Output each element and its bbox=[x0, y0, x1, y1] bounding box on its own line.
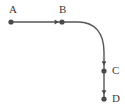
arrowhead-down-toward-d bbox=[102, 90, 107, 94]
node-b bbox=[59, 19, 64, 24]
node-label-a: A bbox=[9, 4, 17, 15]
edge-b-to-c bbox=[62, 22, 104, 71]
node-d bbox=[101, 96, 106, 101]
node-a bbox=[8, 19, 13, 24]
node-label-c: C bbox=[112, 65, 119, 76]
arrowhead-down-toward-c bbox=[102, 61, 107, 65]
diagram-canvas bbox=[0, 0, 125, 106]
node-c bbox=[101, 68, 106, 73]
path-diagram: A B C D bbox=[0, 0, 125, 106]
node-label-d: D bbox=[112, 93, 120, 104]
node-label-b: B bbox=[59, 4, 66, 15]
arrowhead-right-toward-b bbox=[55, 20, 59, 25]
